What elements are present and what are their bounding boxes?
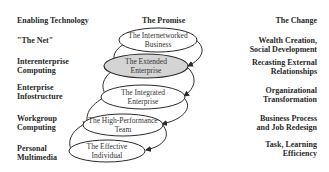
svg-text:Enterprise: Enterprise xyxy=(128,97,159,106)
svg-text:Team: Team xyxy=(115,125,132,134)
svg-text:The Internetworked: The Internetworked xyxy=(128,31,188,40)
ellipse-effective-individual: The Effective Individual xyxy=(69,140,145,162)
ellipse-high-performance-team: The High-Performance Team xyxy=(83,114,163,136)
svg-text:Enterprise: Enterprise xyxy=(131,66,162,75)
svg-text:The Extended: The Extended xyxy=(125,57,167,66)
svg-text:The Effective: The Effective xyxy=(87,142,129,151)
svg-text:The High-Performance: The High-Performance xyxy=(88,116,158,125)
svg-text:Business: Business xyxy=(145,40,172,49)
spiral-diagram: The Internetworked Business The Extended… xyxy=(0,0,329,172)
svg-text:The Integrated: The Integrated xyxy=(121,88,165,97)
ellipse-internetworked-business: The Internetworked Business xyxy=(119,28,197,52)
ellipse-integrated-enterprise: The Integrated Enterprise xyxy=(101,85,185,109)
ellipse-extended-enterprise: The Extended Enterprise xyxy=(104,54,188,78)
svg-text:Individual: Individual xyxy=(92,151,123,160)
